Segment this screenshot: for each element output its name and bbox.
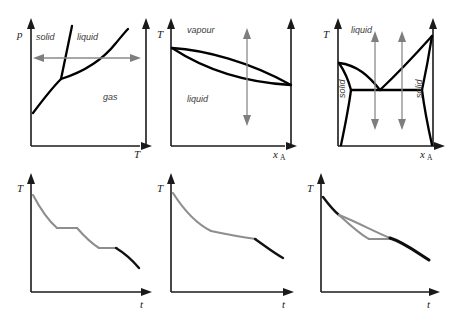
axis-label-p: p [16, 28, 23, 40]
cooling-segment-initial [33, 195, 57, 228]
axis-T-right [141, 18, 152, 150]
cooling-segment-second [77, 228, 99, 248]
panel-cooling-curve-branched: T t [305, 160, 460, 320]
liquidus-curve [172, 48, 291, 85]
axis-label-t: t [140, 298, 144, 310]
cooling-segment-shallow [211, 231, 256, 239]
axis-label-T: T [134, 148, 141, 160]
isobaric-path-arrow [33, 54, 141, 62]
axis-label-T: T [17, 182, 24, 194]
region-label-solid-left: solid [337, 78, 347, 98]
axis-label-T: T [157, 182, 164, 194]
region-label-liquid: liquid [77, 32, 99, 42]
cooling-segment-initial [173, 193, 211, 231]
axis-label-x-subscript: A [427, 153, 433, 160]
axis-t-bottom [321, 288, 440, 296]
cooling-segment-merged [390, 238, 429, 260]
cooling-segment-head [323, 197, 339, 215]
panel-pT-phase-diagram: p T solid liquid gas [0, 0, 155, 160]
cooling-segment-final [255, 239, 283, 258]
cooling-path-arrow-2 [398, 31, 406, 130]
axis-t-bottom [171, 288, 294, 296]
region-label-liquid: liquid [351, 25, 373, 35]
axis-label-t: t [427, 298, 431, 310]
axis-T-left [27, 173, 35, 292]
region-label-liquid: liquid [187, 94, 209, 104]
axis-label-T: T [307, 182, 314, 194]
cooling-path-arrow [243, 28, 251, 126]
cooling-branch-upper [339, 215, 390, 238]
sublimation-curve [33, 79, 61, 113]
vapourus-curve [172, 48, 291, 85]
panel-eutectic-phase-diagram: T liquid solid solid x A [305, 0, 460, 160]
phase-diagram-figure: p T solid liquid gas [0, 0, 460, 320]
axis-T-left [167, 18, 175, 146]
axis-label-x-subscript: A [280, 153, 286, 160]
axis-label-T: T [157, 28, 164, 40]
axis-label-xA: x A [272, 148, 286, 160]
panel-cooling-curve-one-break: T t [155, 160, 305, 320]
region-label-solid-right: solid [414, 78, 424, 98]
axis-label-x: x [419, 148, 425, 160]
fusion-curve [61, 26, 72, 79]
axis-T-left [167, 173, 175, 292]
region-label-solid: solid [36, 32, 56, 42]
axis-label-T: T [323, 28, 330, 40]
axis-label-xA: x A [419, 148, 433, 160]
axis-p [27, 18, 35, 146]
cooling-segment-final [116, 248, 139, 268]
axis-T-left [317, 173, 325, 292]
region-label-vapour: vapour [187, 25, 216, 35]
panel-cooling-curve-two-breaks: T t [0, 160, 155, 320]
region-label-gas: gas [103, 92, 118, 102]
panel-vapour-liquid-lens: T vapour liquid x A [155, 0, 305, 160]
axis-t-bottom [31, 288, 152, 296]
axis-label-x: x [272, 148, 278, 160]
axis-label-t: t [282, 298, 286, 310]
